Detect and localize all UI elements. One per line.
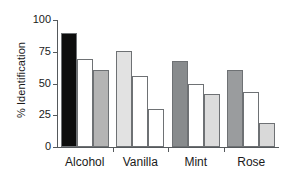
plot-area: 0255075100 AlcoholVanillaMintRose <box>57 20 279 147</box>
y-tick-label-25: 25 <box>25 109 51 120</box>
bar-vanilla-1 <box>116 51 132 147</box>
bar-mint-2 <box>188 84 204 147</box>
group-label-rose: Rose <box>211 156 288 169</box>
x-tick-3 <box>224 148 225 152</box>
y-tick-50 <box>53 84 57 85</box>
y-tick-label-100: 100 <box>25 14 51 25</box>
y-tick-label-50: 50 <box>25 78 51 89</box>
bar-rose-2 <box>243 92 259 147</box>
bar-rose-1 <box>227 70 243 147</box>
y-tick-label-75: 75 <box>25 46 51 57</box>
y-tick-0 <box>53 147 57 148</box>
bar-rose-3 <box>259 123 275 147</box>
y-axis-line <box>57 20 58 147</box>
bar-vanilla-3 <box>148 109 164 147</box>
bar-alcohol-2 <box>77 59 93 147</box>
y-tick-100 <box>53 20 57 21</box>
bar-alcohol-1 <box>61 33 77 147</box>
y-tick-25 <box>53 115 57 116</box>
x-tick-2 <box>168 148 169 152</box>
bar-alcohol-3 <box>93 70 109 147</box>
x-tick-1 <box>113 148 114 152</box>
y-axis-tick-labels: 0255075100 <box>23 20 51 147</box>
bar-chart-figure: % Identification 0255075100 AlcoholVanil… <box>0 0 288 177</box>
bar-mint-1 <box>172 61 188 147</box>
bar-mint-3 <box>204 94 220 147</box>
y-tick-label-0: 0 <box>25 141 51 152</box>
bar-vanilla-2 <box>132 76 148 147</box>
y-tick-75 <box>53 52 57 53</box>
